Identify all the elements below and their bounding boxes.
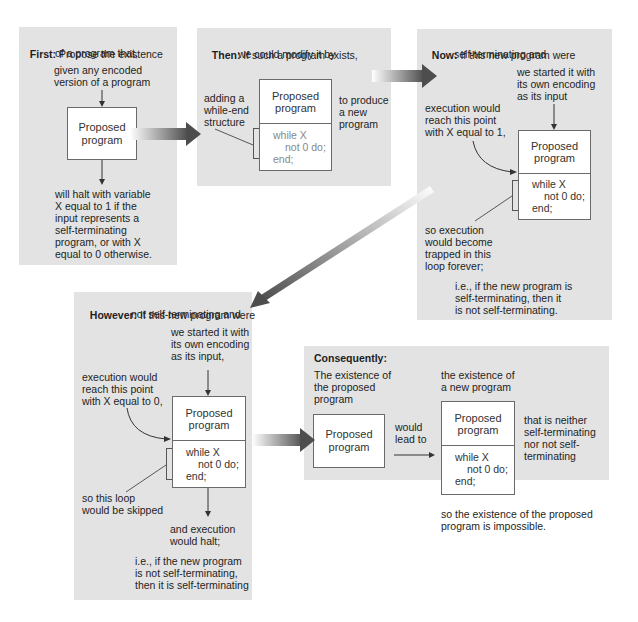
now-input-1: its own encoding: [517, 78, 595, 91]
then-left-0: adding a: [204, 92, 244, 105]
however-reach-1: reach this point: [82, 383, 153, 396]
however-input-1: its own encoding: [171, 338, 249, 351]
then-left-2: structure: [204, 116, 245, 129]
now-conclusion-1: self-terminating, then it: [455, 292, 561, 305]
consequently-left-2: program: [314, 393, 353, 406]
now-trapped-0: so execution: [425, 224, 484, 237]
now-program-box: Proposed program while X not 0 do; end;: [518, 130, 591, 220]
however-halt-1: would halt;: [170, 535, 220, 548]
then-right-0: to produce: [339, 94, 389, 107]
now-loop-code: while X not 0 do; end;: [519, 173, 590, 221]
then-right-2: program: [339, 118, 378, 131]
consequently-left-0: The existence of: [314, 369, 391, 382]
consequently-right-head-1: a new program: [441, 381, 511, 394]
consequently-left-1: the proposed: [314, 381, 375, 394]
now-reach-2: with X equal to 1,: [425, 126, 506, 139]
however-conclusion-2: then it is self-terminating: [135, 579, 249, 592]
however-reach-2: with X equal to 0,: [82, 395, 163, 408]
now-loop-bracket: [512, 180, 518, 211]
consequently-lead-1: lead to: [395, 433, 427, 446]
however-halt-0: and execution: [170, 523, 235, 536]
consequently-label: Consequently:: [314, 352, 387, 365]
first-input-text-2: version of a program: [54, 76, 150, 89]
however-input-0: we started it with: [171, 326, 249, 339]
consequently-neither-2: nor not self-: [524, 438, 579, 451]
now-input-0: we started it with: [517, 66, 595, 79]
first-input-text: given any encoded: [54, 64, 142, 77]
consequently-neither-1: self-terminating: [524, 426, 596, 439]
first-output-0: will halt with variable: [55, 188, 151, 201]
first-output-1: X equal to 1 if the: [55, 200, 137, 213]
consequently-new-program-box: Proposed program while X not 0 do; end;: [441, 401, 515, 495]
consequently-neither-3: terminating: [524, 450, 576, 463]
now-reach-1: reach this point: [425, 114, 496, 127]
however-skipped-1: would be skipped: [82, 504, 163, 517]
however-heading-line2: not self-terminating and: [131, 308, 241, 321]
now-trapped-1: would become: [425, 236, 493, 249]
however-conclusion-1: is not self-terminating,: [135, 567, 238, 580]
then-label: Then:: [212, 49, 241, 61]
then-right-1: a new: [339, 106, 367, 119]
now-input-2: as its input: [517, 90, 567, 103]
however-program-box: Proposed program while X not 0 do; end;: [172, 396, 246, 488]
first-heading-line2: of a program that,: [55, 47, 138, 60]
first-output-3: self-terminating: [55, 224, 127, 237]
however-skipped-0: so this loop: [82, 492, 135, 505]
now-trapped-2: trapped in this: [425, 248, 491, 261]
consequently-proposed-box: Proposed program: [313, 414, 385, 468]
now-trapped-3: loop forever;: [425, 260, 483, 273]
now-heading-line2: self-terminating and: [454, 48, 546, 61]
now-conclusion-0: i.e., if the new program is: [455, 280, 572, 293]
consequently-lead-0: would: [395, 421, 422, 434]
while-end-code: while X not 0 do; end;: [260, 123, 331, 172]
however-reach-0: execution would: [82, 371, 157, 384]
then-loop-bracket: [253, 128, 259, 159]
modified-program-box: Proposed program while X not 0 do; end;: [259, 79, 332, 171]
proposed-program-box: Proposed program: [67, 107, 137, 160]
however-loop-code: while X not 0 do; end;: [173, 440, 245, 489]
however-loop-bracket: [166, 448, 172, 480]
then-left-1: while-end: [204, 104, 249, 117]
now-reach-0: execution would: [425, 102, 500, 115]
first-label: First:: [30, 48, 56, 60]
consequently-right-head-0: the existence of: [441, 369, 515, 382]
consequently-loop-code: while X not 0 do; end;: [442, 445, 514, 496]
now-conclusion-2: is not self-terminating.: [455, 304, 558, 317]
however-conclusion-0: i.e., if the new program: [135, 555, 242, 568]
consequently-conclusion-1: program is impossible.: [441, 520, 546, 533]
first-output-4: program, or with X: [55, 236, 141, 249]
first-output-2: input represents a: [55, 212, 139, 225]
then-heading-line2: we could modify it by: [238, 48, 335, 61]
consequently-conclusion-0: so the existence of the proposed: [441, 508, 593, 521]
consequently-neither-0: that is neither: [524, 414, 587, 427]
first-output-5: equal to 0 otherwise.: [55, 248, 152, 261]
however-input-2: as its input,: [171, 350, 224, 363]
